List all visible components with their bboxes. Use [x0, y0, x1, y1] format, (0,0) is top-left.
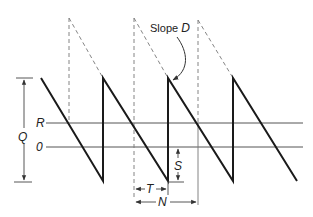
s-label: S: [174, 159, 182, 173]
slope-label: Slope D: [150, 21, 190, 35]
t-dimension: T: [136, 182, 168, 196]
n-label: N: [158, 195, 167, 209]
r-label: R: [36, 116, 45, 130]
slope-annotation: Slope D: [150, 21, 190, 80]
n-dimension: N: [136, 195, 196, 209]
q-dimension: Q: [14, 78, 33, 182]
dashed-projections: [69, 18, 233, 200]
inventory-sawtooth: [41, 78, 297, 181]
zero-label: 0: [36, 140, 43, 154]
t-label: T: [146, 182, 155, 196]
q-label: Q: [18, 130, 27, 144]
s-dimension: S: [168, 149, 184, 182]
inventory-sawtooth-diagram: Q R 0 S T N Slope D: [0, 0, 313, 217]
